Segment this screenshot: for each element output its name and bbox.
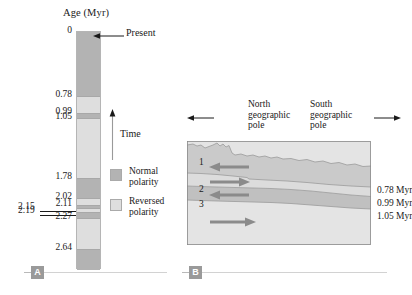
north-pole-arrow-icon [187, 114, 215, 122]
panel-a-polarity-timescale: Age (Myr) 00.780.991.051.782.022.112.272… [0, 0, 200, 295]
panel-a-badge: A [31, 266, 44, 279]
panel-b-stub [182, 272, 189, 273]
polarity-band-normal-10 [77, 249, 100, 270]
north-pole-line2: geographic [248, 110, 290, 121]
boundary-age-0-99: 0.99 Myr [377, 199, 412, 209]
polarity-boundary-line-3 [77, 118, 100, 119]
age-label-2-64: 2.64 [0, 243, 72, 253]
polarity-band-reversed-5 [77, 198, 100, 205]
age-label-0: 0 [0, 26, 72, 36]
age-leader-line-2-19 [40, 215, 76, 216]
age-label-2-11: 2.11 [0, 199, 72, 209]
polarity-band-normal-4 [77, 178, 100, 198]
south-pole-line2: geographic [310, 110, 352, 121]
legend-swatch-reversed-icon [110, 199, 122, 211]
layer-number-1: 1 [199, 158, 204, 168]
polarity-band-normal-0 [77, 32, 100, 96]
sediment-cross-section [187, 141, 371, 245]
age-label-1-78: 1.78 [0, 172, 72, 182]
time-label: Time [120, 128, 141, 139]
present-arrow-icon [93, 32, 125, 40]
polarity-band-reversed-3 [77, 118, 100, 178]
age-label-1-05: 1.05 [0, 112, 72, 122]
age-label-2-27: 2.27 [0, 212, 72, 222]
time-arrow-icon [108, 109, 117, 161]
panel-a-rule [44, 272, 167, 273]
age-label-0-78: 0.78 [0, 90, 72, 100]
north-pole-line3: pole [248, 120, 290, 131]
polarity-boundary-line-10 [77, 249, 100, 250]
panel-b-rule [202, 272, 387, 273]
polarity-boundary-line-6 [77, 205, 100, 206]
legend-swatch-normal-icon [110, 169, 122, 181]
polarity-boundary-line-7 [77, 208, 100, 209]
age-label-group: 00.780.991.051.782.022.112.272.642.152.1… [0, 0, 73, 295]
north-pole-line1: North [248, 99, 290, 110]
layer-number-3: 3 [199, 200, 204, 210]
south-pole-line3: pole [310, 120, 352, 131]
south-pole-label: South geographic pole [310, 99, 352, 131]
boundary-age-1-05: 1.05 Myr [377, 212, 412, 222]
panel-b-sediment-layers: North geographic pole South geographic p… [185, 0, 409, 295]
polarity-band-reversed-9 [77, 218, 100, 248]
polarity-column [76, 31, 101, 269]
polarity-boundary-line-2 [77, 113, 100, 114]
south-pole-line1: South [310, 99, 352, 110]
panel-b-badge: B [189, 266, 202, 279]
polarity-boundary-line-4 [77, 178, 100, 179]
panel-a-stub [24, 272, 31, 273]
layer-number-2: 2 [199, 185, 204, 195]
age-leader-line-2-15 [40, 211, 76, 212]
age-label-2-19: 2.19 [18, 206, 35, 216]
polarity-boundary-line-1 [77, 96, 100, 97]
south-pole-arrow-icon [373, 114, 401, 122]
polarity-boundary-line-8 [77, 212, 100, 213]
polarity-boundary-line-5 [77, 198, 100, 199]
boundary-age-0-78: 0.78 Myr [377, 186, 412, 196]
polarity-boundary-line-9 [77, 218, 100, 219]
north-pole-label: North geographic pole [248, 99, 290, 131]
polarity-band-reversed-1 [77, 96, 100, 113]
present-label: Present [126, 27, 155, 38]
